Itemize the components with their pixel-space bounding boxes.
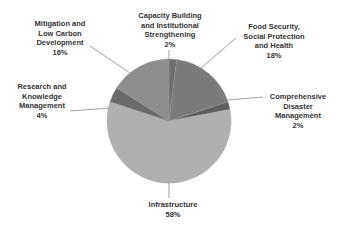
label-food-security: Food Security, Social Protection and Hea… <box>232 22 316 60</box>
label-mitigation: Mitigation and Low Carbon Development 16… <box>28 19 92 57</box>
leader-line-mitigation <box>90 46 130 73</box>
pie-chart: Capacity Building and Institutional Stre… <box>0 0 338 228</box>
label-disaster-management: Comprehensive Disaster Management 2% <box>258 92 338 130</box>
label-capacity-building: Capacity Building and Institutional Stre… <box>128 11 212 49</box>
leader-line-research <box>70 108 110 111</box>
label-research: Research and Knowledge Management 4% <box>12 82 72 120</box>
label-infrastructure: Infrastructure 58% <box>145 200 201 219</box>
